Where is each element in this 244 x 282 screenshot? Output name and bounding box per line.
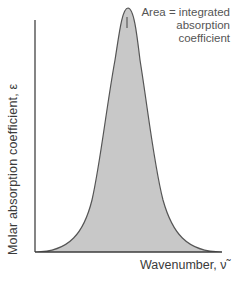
annotation-line-3: coefficient: [141, 32, 230, 45]
y-axis-label: Molar absorption coefficient, ε: [6, 84, 20, 255]
area-annotation: Area = integrated absorption coefficient: [141, 6, 230, 45]
annotation-line-1: Area = integrated: [141, 6, 230, 19]
annotation-line-2: absorption: [141, 19, 230, 32]
x-axis-label: Wavenumber, ν̃: [140, 258, 226, 272]
